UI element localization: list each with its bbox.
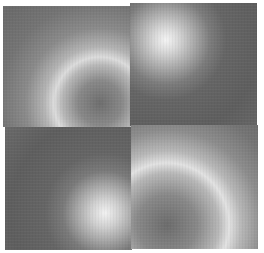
gradient-tile-top-right	[130, 3, 257, 126]
gradient-tile-bottom-right	[131, 125, 258, 249]
gradient-tile-bottom-left	[5, 127, 132, 250]
gradient-tile-top-left	[3, 6, 131, 127]
